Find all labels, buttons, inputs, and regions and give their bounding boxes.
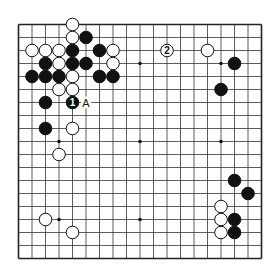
- white-stone: [107, 44, 120, 57]
- white-stone: [66, 122, 79, 135]
- white-stone: [66, 31, 79, 44]
- black-stone: [80, 31, 93, 44]
- star-point: [138, 62, 142, 66]
- star-point: [138, 218, 142, 222]
- black-stone: [39, 70, 52, 83]
- white-stone: [39, 44, 52, 57]
- black-stone: [26, 70, 39, 83]
- white-stone: 2: [161, 44, 174, 57]
- move-number-label: 1: [70, 97, 76, 108]
- black-stone: [39, 96, 52, 109]
- white-stone: [215, 200, 228, 213]
- white-stone: [26, 44, 39, 57]
- white-stone: [53, 57, 66, 70]
- white-stone: [215, 213, 228, 226]
- white-stone: [66, 83, 79, 96]
- black-stone: [228, 174, 241, 187]
- black-stone: [80, 57, 93, 70]
- point-label-a: A: [82, 97, 90, 109]
- move-number-label: 2: [164, 45, 170, 56]
- black-stone: [39, 122, 52, 135]
- white-stone: [66, 18, 79, 31]
- star-point: [57, 218, 61, 222]
- star-point: [219, 140, 223, 144]
- black-stone: [107, 70, 120, 83]
- black-stone: [228, 57, 241, 70]
- white-stone: [107, 57, 120, 70]
- black-stone: [93, 44, 106, 57]
- black-stone: [39, 57, 52, 70]
- black-stone: [228, 213, 241, 226]
- black-stone: [242, 187, 255, 200]
- star-point: [219, 62, 223, 66]
- point-labels: A: [81, 97, 91, 109]
- white-stone: [201, 44, 214, 57]
- white-stone: [53, 148, 66, 161]
- black-stone: [66, 57, 79, 70]
- star-point: [138, 140, 142, 144]
- white-stone: [66, 226, 79, 239]
- white-stone: [215, 226, 228, 239]
- black-stone: [215, 83, 228, 96]
- black-stone: [66, 44, 79, 57]
- white-stone: [39, 213, 52, 226]
- white-stone: [53, 44, 66, 57]
- black-stone: [228, 226, 241, 239]
- white-stone: [66, 70, 79, 83]
- black-stone: 1: [66, 96, 79, 109]
- white-stone: [53, 83, 66, 96]
- black-stone: [53, 70, 66, 83]
- go-board: 21 A: [0, 0, 279, 276]
- black-stone: [93, 70, 106, 83]
- star-point: [57, 140, 61, 144]
